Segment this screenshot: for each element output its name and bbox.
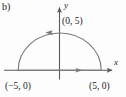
point-label-right-endpoint: (5, 0) [89, 82, 110, 92]
y-axis-label: y [64, 1, 68, 10]
part-label: b) [2, 2, 10, 12]
point-label-left-endpoint: (−5, 0) [5, 82, 31, 92]
figure-container: b) y x (0, 5) (−5, 0) (5, 0) [0, 0, 126, 97]
point-label-top-vertex: (0, 5) [62, 17, 83, 27]
x-axis-label: x [114, 58, 118, 67]
